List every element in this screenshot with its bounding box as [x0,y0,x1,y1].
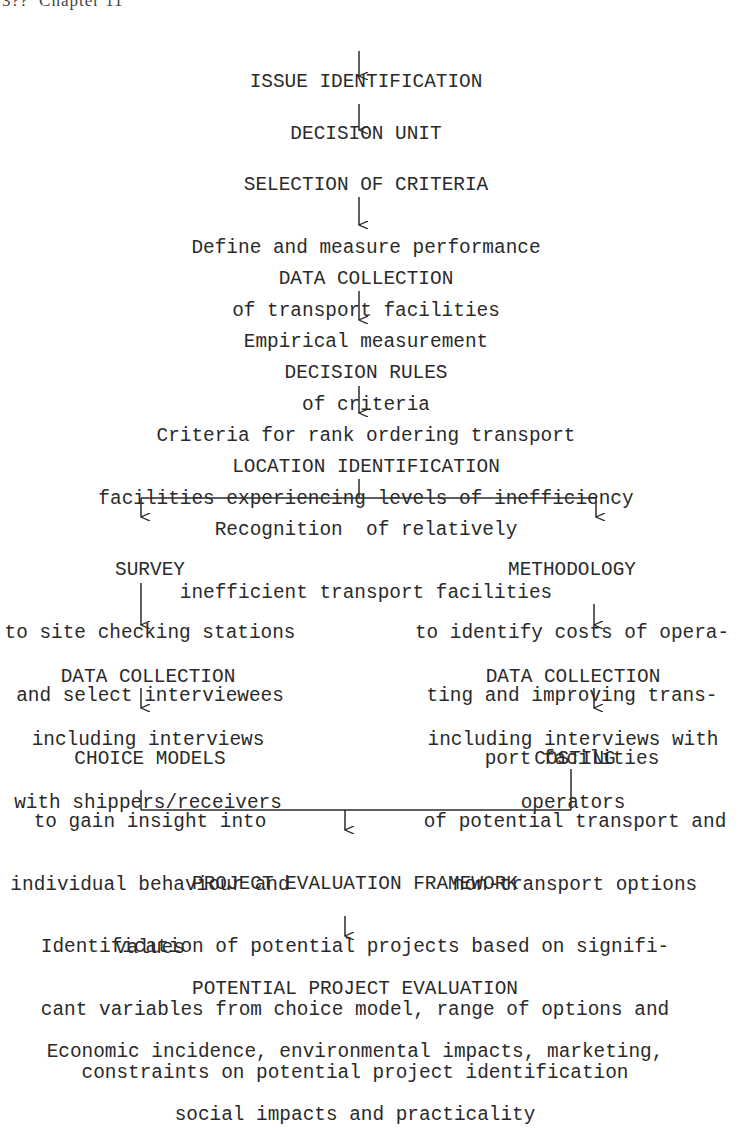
node-title: POTENTIAL PROJECT EVALUATION [47,979,664,1000]
node-title: SURVEY [5,560,296,581]
node-title: COSTING [424,749,727,770]
node-title: DECISION RULES [98,363,633,384]
node-title: LOCATION IDENTIFICATION [180,457,552,478]
node-title: DATA COLLECTION [428,667,719,688]
node-title: SELECTION OF CRITERIA [191,175,540,196]
node-text: social impacts and practicality [47,1105,664,1126]
node-text: Economic incidence, environmental impact… [47,1042,664,1063]
node-text: to gain insight into [10,812,289,833]
node-text: of potential transport and [424,812,727,833]
node-title: CHOICE MODELS [10,749,289,770]
node-title: DATA COLLECTION [244,269,488,290]
node-potential-project-evaluation: POTENTIAL PROJECT EVALUATION Economic in… [47,937,664,1128]
node-title: METHODOLOGY [415,560,729,581]
node-title: PROJECT EVALUATION FRAMEWORK [41,874,669,895]
node-title: DATA COLLECTION [14,667,282,688]
